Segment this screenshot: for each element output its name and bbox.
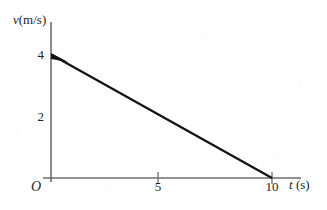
origin-label: O <box>31 180 41 194</box>
y-tick-label-4: 4 <box>28 48 44 61</box>
x-axis-label-unit: (s) <box>296 177 310 192</box>
x-axis-label-variable: t <box>289 177 293 192</box>
velocity-line <box>52 55 272 178</box>
y-axis-label: v(m/s) <box>13 13 46 26</box>
x-tick-label-5: 5 <box>148 180 168 193</box>
x-tick-label-10: 10 <box>262 180 282 193</box>
velocity-line-start-cap <box>51 53 68 62</box>
velocity-time-graph-figure: v(m/s) t (s) O 4 2 5 10 <box>0 0 327 210</box>
y-axis-label-unit: (m/s) <box>19 12 46 27</box>
y-tick-label-2: 2 <box>28 110 44 123</box>
x-axis-label: t (s) <box>289 178 310 191</box>
